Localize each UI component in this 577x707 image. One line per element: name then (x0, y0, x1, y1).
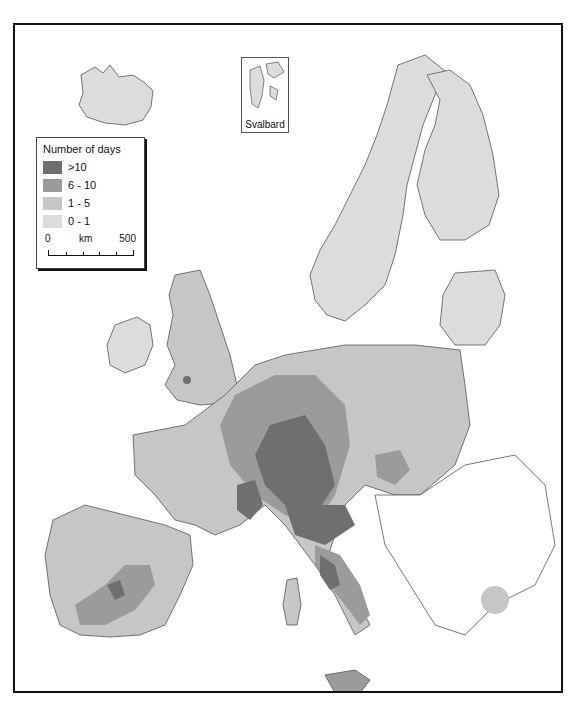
region-sardinia (283, 578, 301, 625)
zone-1-5-bulgaria (481, 586, 509, 614)
region-great-britain (165, 270, 237, 405)
zone-gt10-london (183, 376, 191, 384)
legend-item-1-5: 1 - 5 (43, 194, 138, 212)
scale-bar: 0 km 500 (43, 233, 138, 261)
svalbard-label: Svalbard (242, 119, 288, 130)
region-sicily (325, 670, 370, 691)
scale-bar-line (48, 250, 134, 256)
legend-title: Number of days (43, 143, 138, 155)
legend-swatch-6-10 (43, 179, 62, 192)
legend-item-gt10: >10 (43, 158, 138, 176)
scale-end: 500 (119, 233, 136, 244)
legend-label: 0 - 1 (68, 215, 90, 227)
region-baltics (440, 270, 505, 345)
scale-start: 0 (45, 233, 51, 244)
scale-unit: km (79, 233, 92, 244)
region-iceland (79, 65, 153, 125)
legend-label: 1 - 5 (68, 197, 90, 209)
legend-item-6-10: 6 - 10 (43, 176, 138, 194)
zone-6-10-italy (315, 545, 370, 625)
map-frame: Svalbard Number of days >10 6 - 10 1 - 5… (13, 23, 563, 693)
region-ireland (107, 317, 153, 373)
map-legend: Number of days >10 6 - 10 1 - 5 0 - 1 0 … (36, 137, 145, 269)
svalbard-island-shape (242, 58, 288, 118)
legend-swatch-gt10 (43, 161, 62, 174)
legend-swatch-0-1 (43, 215, 62, 228)
legend-label: >10 (68, 161, 87, 173)
legend-item-0-1: 0 - 1 (43, 212, 138, 230)
legend-label: 6 - 10 (68, 179, 96, 191)
svalbard-inset: Svalbard (241, 57, 289, 133)
legend-swatch-1-5 (43, 197, 62, 210)
